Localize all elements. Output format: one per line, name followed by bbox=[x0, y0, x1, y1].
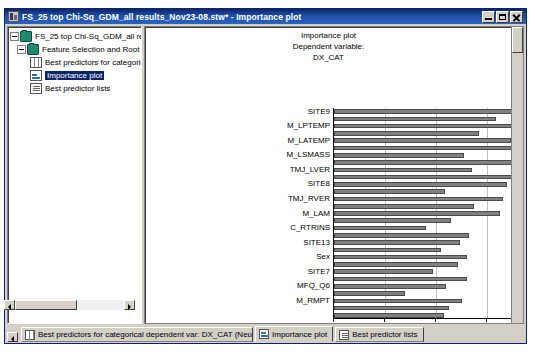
chart-title: Importance plot bbox=[145, 30, 512, 41]
bar[interactable] bbox=[334, 291, 405, 296]
plot-icon bbox=[30, 70, 42, 81]
bar[interactable] bbox=[334, 284, 446, 289]
y-axis-tick-label: SITE7 bbox=[308, 268, 330, 276]
chart-panel: Importance plot Dependent variable: DX_C… bbox=[144, 26, 524, 324]
x-axis-tick bbox=[435, 319, 436, 322]
tree-item-best-predictor-lists[interactable]: Best predictor lists bbox=[10, 82, 141, 95]
bar[interactable] bbox=[334, 262, 458, 267]
scroll-right-icon[interactable] bbox=[124, 300, 135, 310]
close-button[interactable] bbox=[510, 11, 523, 23]
bar[interactable] bbox=[334, 197, 503, 202]
tree-horizontal-scrollbar[interactable] bbox=[4, 300, 135, 313]
tree-item-best-predictors[interactable]: Best predictors for categoric bbox=[10, 56, 141, 69]
folder-icon bbox=[27, 44, 39, 55]
tree-item-label: Best predictor lists bbox=[45, 84, 110, 93]
spreadsheet-icon bbox=[25, 330, 35, 340]
workbook-tree: FS_25 top Chi-Sq_GDM_all results_Nc Feat… bbox=[8, 27, 141, 323]
bar[interactable] bbox=[334, 226, 426, 231]
y-axis-labels: SITE9M_LPTEMPM_LATEMPM_LSMASSTMJ_LVERSIT… bbox=[233, 108, 330, 319]
workbook-tree-panel[interactable]: FS_25 top Chi-Sq_GDM_all results_Nc Feat… bbox=[7, 26, 142, 324]
x-axis-tick bbox=[486, 319, 487, 322]
bar[interactable] bbox=[334, 146, 524, 151]
window-body: FS_25 top Chi-Sq_GDM_all results_Nc Feat… bbox=[5, 24, 526, 326]
x-axis-tick bbox=[384, 319, 385, 322]
tab-best-predictors[interactable]: Best predictors for categorical dependen… bbox=[21, 327, 253, 342]
bar[interactable] bbox=[334, 233, 469, 238]
bar[interactable] bbox=[334, 211, 500, 216]
y-axis-tick-label: SITE13 bbox=[303, 239, 330, 247]
minimize-button[interactable] bbox=[482, 11, 495, 23]
bar[interactable] bbox=[334, 204, 474, 209]
x-axis-tick-label: 30 bbox=[482, 323, 491, 324]
y-axis-tick-label: TMJ_RVER bbox=[288, 195, 330, 203]
bar[interactable] bbox=[334, 131, 479, 136]
scrollbar-thumb[interactable] bbox=[15, 300, 77, 310]
folder-icon bbox=[20, 31, 32, 42]
y-axis-tick-label: SITE9 bbox=[308, 108, 330, 116]
y-axis-tick-label: MFQ_Q6 bbox=[297, 282, 330, 290]
chart-subtitle: Dependent variable: bbox=[145, 41, 512, 52]
plot-icon bbox=[259, 329, 269, 339]
list-icon bbox=[30, 83, 42, 94]
bar[interactable] bbox=[334, 138, 511, 143]
bar[interactable] bbox=[334, 189, 445, 194]
bar[interactable] bbox=[334, 299, 462, 304]
tab-label: Best predictor lists bbox=[352, 330, 417, 339]
maximize-button[interactable] bbox=[496, 11, 509, 23]
bar[interactable] bbox=[334, 277, 467, 282]
tab-scroll-left-icon[interactable] bbox=[7, 332, 18, 342]
y-axis-tick-label: M_LATEMP bbox=[287, 137, 330, 145]
application-window: FS_25 top Chi-Sq_GDM_all results_Nov23-0… bbox=[4, 8, 527, 344]
tab-scroll-buttons[interactable] bbox=[7, 332, 18, 342]
y-axis-tick-label: M_LSMASS bbox=[286, 151, 330, 159]
y-axis-tick-label: TMJ_LVER bbox=[290, 166, 330, 174]
bar[interactable] bbox=[334, 153, 464, 158]
tree-item-label: Feature Selection and Root Caus bbox=[42, 45, 141, 54]
tree-item-importance-plot[interactable]: Importance plot bbox=[10, 69, 141, 82]
tab-importance-plot[interactable]: Importance plot bbox=[255, 326, 333, 342]
window-title: FS_25 top Chi-Sq_GDM_all results_Nov23-0… bbox=[22, 12, 482, 22]
bar[interactable] bbox=[334, 313, 444, 318]
tree-item-label: FS_25 top Chi-Sq_GDM_all results_Nc bbox=[35, 32, 141, 41]
y-axis-tick-label: M_LPTEMP bbox=[287, 122, 330, 130]
expander-icon[interactable] bbox=[10, 32, 19, 41]
scrollbar-thumb[interactable] bbox=[512, 27, 523, 53]
list-icon bbox=[339, 330, 349, 340]
spreadsheet-icon bbox=[30, 57, 42, 68]
y-axis-tick-label: Sex bbox=[316, 253, 330, 261]
bar[interactable] bbox=[334, 255, 467, 260]
bar[interactable] bbox=[334, 218, 451, 223]
bar[interactable] bbox=[334, 182, 507, 187]
tree-item-label: Best predictors for categoric bbox=[45, 58, 141, 67]
window-titlebar[interactable]: FS_25 top Chi-Sq_GDM_all results_Nov23-0… bbox=[5, 9, 526, 24]
bar[interactable] bbox=[334, 117, 496, 122]
workbook-icon bbox=[8, 11, 19, 22]
document-tabstrip: Best predictors for categorical dependen… bbox=[5, 326, 526, 343]
x-axis-tick-label: 10 bbox=[380, 323, 389, 324]
bar[interactable] bbox=[334, 168, 472, 173]
x-axis-tick bbox=[333, 319, 334, 322]
tab-best-predictor-lists[interactable]: Best predictor lists bbox=[335, 327, 423, 342]
x-axis: 0102030405060 bbox=[333, 319, 524, 324]
chart-vertical-scrollbar[interactable] bbox=[511, 27, 523, 323]
bar[interactable] bbox=[334, 160, 524, 165]
chart-title-block: Importance plot Dependent variable: DX_C… bbox=[145, 30, 512, 63]
bar[interactable] bbox=[334, 306, 449, 311]
chart-subtitle-value: DX_CAT bbox=[145, 52, 512, 63]
tab-label: Best predictors for categorical dependen… bbox=[38, 330, 253, 339]
bar[interactable] bbox=[334, 124, 524, 129]
y-axis-tick-label: M_LAM bbox=[302, 210, 330, 218]
tree-item-feature-selection[interactable]: Feature Selection and Root Caus bbox=[10, 43, 141, 56]
bar[interactable] bbox=[334, 248, 441, 253]
y-axis-tick-label: SITE8 bbox=[308, 180, 330, 188]
bar[interactable] bbox=[334, 269, 433, 274]
expander-icon[interactable] bbox=[17, 45, 26, 54]
scroll-left-icon[interactable] bbox=[4, 300, 15, 310]
scrollbar-track[interactable] bbox=[15, 300, 124, 310]
bar[interactable] bbox=[334, 240, 460, 245]
tab-label: Importance plot bbox=[272, 330, 327, 339]
bar[interactable] bbox=[334, 109, 524, 114]
bar[interactable] bbox=[334, 175, 515, 180]
tree-item-root[interactable]: FS_25 top Chi-Sq_GDM_all results_Nc bbox=[10, 30, 141, 43]
plot-inner bbox=[334, 108, 524, 318]
